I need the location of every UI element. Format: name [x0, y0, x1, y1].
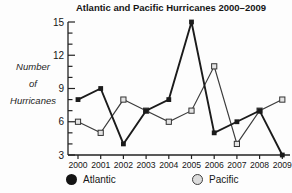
y-tick-label: 3: [58, 150, 64, 161]
data-point-atlantic: [121, 142, 126, 147]
atlantic-filled-circle-icon: [66, 174, 77, 185]
y-tick-label: 12: [53, 50, 65, 61]
x-tick-label: 2003: [137, 160, 156, 170]
legend-label-atlantic: Atlantic: [83, 174, 116, 185]
x-tick-label: 2005: [182, 160, 201, 170]
legend-item-pacific: Pacific: [192, 171, 238, 188]
data-point-pacific: [75, 119, 80, 124]
data-point-atlantic: [144, 108, 149, 113]
y-tick-label: 6: [58, 116, 64, 127]
data-point-atlantic: [76, 97, 81, 102]
data-point-pacific: [212, 64, 217, 69]
data-point-atlantic: [166, 97, 171, 102]
x-tick-label: 2006: [205, 160, 224, 170]
data-point-pacific: [280, 97, 285, 102]
data-point-pacific: [189, 108, 194, 113]
data-point-atlantic: [212, 130, 217, 135]
x-tick-label: 2000: [68, 160, 87, 170]
x-tick-label: 2008: [250, 160, 269, 170]
y-tick-label: 15: [53, 17, 65, 28]
series-line-pacific: [78, 66, 282, 144]
plot-area: 3691215200020012002200320042005200620072…: [0, 0, 292, 193]
data-point-pacific: [166, 119, 171, 124]
series-line-atlantic: [78, 22, 282, 155]
hurricane-line-chart: Atlantic and Pacific Hurricanes 2000–200…: [0, 0, 292, 193]
data-point-pacific: [98, 130, 103, 135]
x-tick-label: 2002: [114, 160, 133, 170]
data-point-atlantic: [280, 153, 285, 158]
x-tick-label: 2001: [91, 160, 110, 170]
x-tick-label: 2007: [227, 160, 246, 170]
y-tick-label: 9: [58, 83, 64, 94]
x-tick-label: 2004: [159, 160, 178, 170]
data-point-atlantic: [189, 20, 194, 25]
data-point-pacific: [121, 97, 126, 102]
data-point-atlantic: [257, 108, 262, 113]
data-point-pacific: [234, 141, 239, 146]
data-point-atlantic: [235, 119, 240, 124]
x-tick-label: 2009: [273, 160, 292, 170]
legend-label-pacific: Pacific: [209, 174, 238, 185]
data-point-atlantic: [98, 86, 103, 91]
legend-item-atlantic: Atlantic: [66, 171, 116, 188]
pacific-open-circle-icon: [192, 174, 203, 185]
